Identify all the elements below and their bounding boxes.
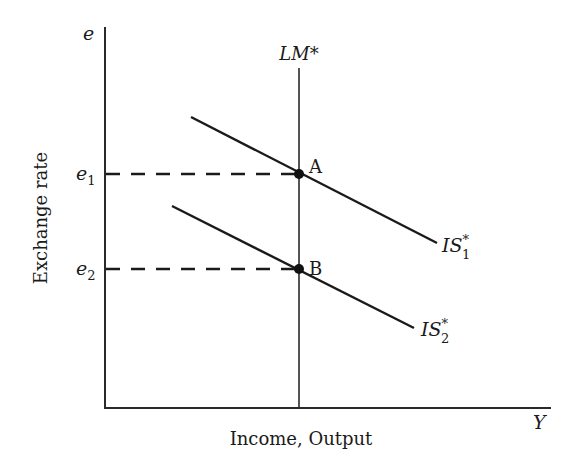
point-b-label: B xyxy=(309,258,322,279)
y-axis-symbol: e xyxy=(83,22,94,44)
lm-label: LM* xyxy=(278,43,318,64)
is2-curve xyxy=(172,206,414,328)
y-axis-label: Exchange rate xyxy=(30,152,51,284)
point-a xyxy=(294,169,304,179)
x-axis-label: Income, Output xyxy=(230,428,373,449)
diagram-canvas: e Y Exchange rate Income, Output LM* IS*… xyxy=(0,0,580,469)
is1-label: IS*1 xyxy=(441,232,470,262)
point-b xyxy=(294,264,304,274)
point-a-label: A xyxy=(308,156,323,177)
x-axis-symbol: Y xyxy=(533,411,548,433)
e2-label: e2 xyxy=(76,257,96,283)
e1-label: e1 xyxy=(76,162,96,188)
is2-label: IS*2 xyxy=(420,316,449,346)
is1-curve xyxy=(191,117,437,243)
